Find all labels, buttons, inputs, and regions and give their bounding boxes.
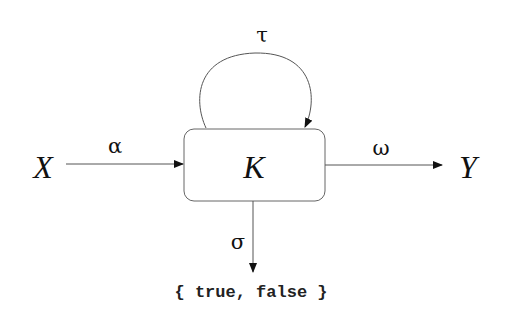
alpha-edge-label: α [108, 136, 122, 157]
self-loop-arrow [200, 53, 312, 128]
omega-edge-label: ω [372, 138, 389, 159]
input-node-label: X [33, 151, 53, 183]
tau-edge-label: τ [256, 25, 268, 46]
sigma-edge-label: σ [231, 232, 245, 253]
result-set-label: { true, false } [174, 284, 327, 301]
diagram-canvas: X K Y α ω τ σ { true, false } [0, 0, 508, 317]
process-node-label: K [243, 151, 264, 183]
output-node-label: Y [459, 151, 477, 183]
